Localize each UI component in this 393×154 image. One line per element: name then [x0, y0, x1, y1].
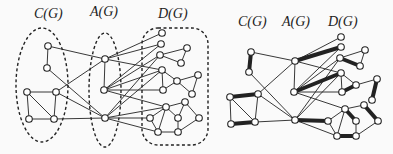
vertex-node — [353, 82, 360, 89]
vertex-node — [374, 76, 381, 83]
vertex-node — [159, 67, 166, 74]
edge — [160, 48, 187, 55]
vertex-node — [147, 115, 154, 122]
right-label-c: C(G) — [238, 14, 267, 30]
edge — [337, 109, 345, 136]
vertex-node — [102, 115, 109, 122]
matched-edge — [295, 120, 328, 121]
edge — [54, 92, 56, 119]
edge — [54, 118, 105, 119]
vertex-node — [325, 118, 332, 125]
vertex-node — [196, 115, 203, 122]
edge — [255, 120, 295, 122]
vertex-node — [45, 43, 52, 50]
edge — [27, 92, 29, 119]
vertex-node — [339, 89, 346, 96]
vertex-node — [159, 30, 166, 37]
edge — [105, 107, 166, 118]
vertex-node — [175, 115, 182, 122]
matched-edge — [230, 94, 258, 97]
right-label-d: D(G) — [328, 14, 358, 30]
edge — [294, 61, 295, 92]
vertex-node — [228, 121, 235, 128]
edge — [48, 46, 105, 59]
edge — [105, 59, 162, 70]
edge — [56, 59, 105, 92]
edge — [105, 70, 162, 118]
edge — [104, 70, 162, 90]
vertex-node — [369, 97, 376, 104]
vertex-node — [334, 133, 341, 140]
vertex-node — [182, 99, 189, 106]
vertex-node — [353, 118, 360, 125]
vertex-node — [361, 102, 368, 109]
vertex-node — [163, 104, 170, 111]
vertex-node — [189, 91, 196, 98]
left-label-a: A(G) — [90, 4, 118, 20]
vertex-node — [158, 41, 165, 48]
vertex-node — [291, 89, 298, 96]
left-label-c: C(G) — [34, 6, 63, 22]
vertex-node — [24, 89, 31, 96]
vertex-node — [248, 49, 255, 56]
vertex-node — [51, 116, 58, 123]
edge — [258, 94, 295, 120]
vertex-node — [157, 52, 164, 59]
vertex-node — [155, 129, 162, 136]
vertex-node — [357, 63, 364, 70]
vertex-node — [337, 55, 344, 62]
left-label-d: D(G) — [158, 6, 188, 22]
edge — [27, 92, 54, 119]
vertex-node — [338, 70, 345, 77]
vertex-node — [252, 119, 259, 126]
vertex-node — [174, 78, 181, 85]
right-label-a: A(G) — [282, 14, 310, 30]
vertex-node — [44, 65, 51, 72]
edge — [104, 44, 161, 90]
edge — [258, 61, 295, 94]
edge — [340, 50, 365, 58]
vertex-node — [338, 34, 345, 41]
vertex-node — [255, 91, 262, 98]
vertex-node — [195, 72, 202, 79]
vertex-node — [102, 56, 109, 63]
vertex-node — [375, 118, 382, 125]
edge — [356, 121, 378, 136]
edge — [104, 59, 105, 90]
vertex-node — [101, 87, 108, 94]
vertex-node — [246, 69, 253, 76]
region-dg — [142, 28, 208, 145]
region-cg — [16, 28, 68, 142]
edge — [158, 107, 166, 132]
edge — [295, 73, 341, 120]
vertex-node — [26, 116, 33, 123]
vertex-node — [184, 45, 191, 52]
edge — [230, 97, 255, 122]
vertex-node — [175, 129, 182, 136]
vertex-node — [178, 60, 185, 67]
vertex-node — [292, 58, 299, 65]
vertex-node — [342, 106, 349, 113]
vertex-node — [338, 44, 345, 51]
vertex-node — [53, 89, 60, 96]
vertex-node — [227, 94, 234, 101]
vertex-node — [292, 117, 299, 124]
edge — [230, 97, 231, 124]
vertex-node — [160, 87, 167, 94]
edge — [251, 52, 295, 61]
edge — [56, 92, 105, 118]
vertex-node — [362, 47, 369, 54]
vertex-node — [353, 133, 360, 140]
edge — [255, 94, 258, 122]
